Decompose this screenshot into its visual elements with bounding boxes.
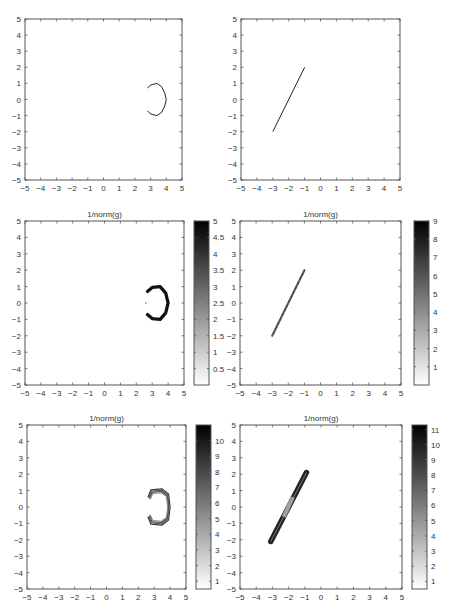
- x-tick-label: 4: [166, 389, 171, 398]
- y-tick-label: −2: [228, 128, 238, 137]
- y-tick-label: 5: [17, 15, 22, 24]
- x-tick-label: 4: [382, 184, 387, 193]
- x-tick-label: −1: [83, 184, 93, 193]
- panel-row1-left: −5−4−3−2−1012345−5−4−3−2−1012345: [12, 15, 185, 193]
- y-tick-label: 4: [233, 31, 238, 40]
- x-tick-label: −5: [20, 184, 30, 193]
- x-tick-label: 4: [168, 593, 173, 602]
- colorbar-tick-label: 8: [431, 471, 436, 480]
- y-tick-label: 2: [17, 266, 22, 275]
- x-tick-label: −3: [268, 593, 278, 602]
- axes-frame: [25, 221, 184, 385]
- y-tick-label: −5: [14, 585, 24, 594]
- colorbar-tick-label: 9: [431, 456, 436, 465]
- colorbar-tick-label: 3: [215, 546, 220, 555]
- y-tick-label: −1: [227, 519, 237, 528]
- y-tick-label: −2: [14, 536, 24, 545]
- y-tick-label: −3: [227, 348, 237, 357]
- x-tick-label: 3: [152, 593, 157, 602]
- colorbar: 123456789: [414, 217, 438, 385]
- x-tick-label: 1: [335, 593, 340, 602]
- y-tick-label: 3: [233, 47, 238, 56]
- y-tick-label: 0: [17, 96, 22, 105]
- colorbar-tick-label: 8: [215, 468, 220, 477]
- colorbar-tick-label: 4.5: [213, 233, 225, 242]
- y-tick-label: −4: [12, 160, 22, 169]
- y-tick-label: 0: [232, 299, 237, 308]
- y-tick-label: 1: [233, 79, 238, 88]
- colorbar-tick-label: 1: [431, 577, 436, 586]
- colorbar-tick-label: 1: [215, 577, 220, 586]
- x-tick-label: 0: [104, 593, 109, 602]
- x-tick-label: −3: [52, 389, 62, 398]
- y-tick-label: −1: [12, 315, 22, 324]
- axes-frame: [241, 19, 400, 180]
- y-tick-label: 2: [232, 266, 237, 275]
- colorbar-tick-label: 9: [215, 452, 220, 461]
- x-tick-label: 5: [398, 184, 403, 193]
- x-tick-label: 5: [182, 389, 187, 398]
- y-tick-label: 4: [232, 437, 237, 446]
- y-tick-label: −4: [227, 365, 237, 374]
- x-tick-label: 1: [117, 184, 122, 193]
- y-tick-label: −5: [12, 176, 22, 185]
- y-tick-label: 3: [17, 250, 22, 259]
- y-tick-label: −1: [227, 315, 237, 324]
- figure: −5−4−3−2−1012345−5−4−3−2−1012345−5−4−3−2…: [0, 0, 450, 611]
- x-tick-label: −5: [235, 389, 245, 398]
- colorbar-tick-label: 1.5: [213, 332, 225, 341]
- y-tick-label: 5: [232, 217, 237, 226]
- y-tick-label: −5: [228, 176, 238, 185]
- colorbar-tick-label: 7: [431, 486, 436, 495]
- y-tick-label: 3: [232, 454, 237, 463]
- axes-frame: [27, 425, 186, 589]
- y-tick-label: −2: [227, 536, 237, 545]
- x-tick-label: −3: [268, 184, 278, 193]
- x-tick-label: 2: [133, 184, 138, 193]
- colorbar-tick-label: 7: [433, 253, 438, 262]
- x-tick-label: 0: [318, 184, 323, 193]
- y-tick-label: −3: [14, 552, 24, 561]
- y-tick-label: 2: [233, 63, 238, 72]
- colorbar-tick-label: 5: [431, 517, 436, 526]
- x-tick-label: 5: [399, 389, 404, 398]
- panel-title: 1/norm(g): [89, 414, 124, 423]
- y-tick-label: −4: [12, 365, 22, 374]
- x-tick-label: 3: [366, 184, 371, 193]
- y-tick-label: 3: [17, 47, 22, 56]
- y-tick-label: −4: [14, 569, 24, 578]
- colorbar-tick-label: 5: [215, 515, 220, 524]
- y-tick-label: 5: [233, 15, 238, 24]
- y-tick-label: −5: [227, 381, 237, 390]
- x-tick-label: −4: [38, 593, 48, 602]
- colorbar-tick-label: 5: [433, 290, 438, 299]
- colorbar-tick-label: 1: [433, 363, 438, 372]
- x-tick-label: −2: [70, 593, 80, 602]
- colorbar-tick-label: 4: [433, 308, 438, 317]
- x-tick-label: −4: [252, 389, 262, 398]
- x-tick-label: −1: [300, 593, 310, 602]
- x-tick-label: −3: [54, 593, 64, 602]
- colorbar: 1234567891011: [412, 425, 440, 589]
- y-tick-label: 1: [232, 283, 237, 292]
- x-tick-label: 1: [118, 389, 123, 398]
- panel-row2-right: −5−4−3−2−1012345−5−4−3−2−10123451/norm(g…: [227, 210, 438, 398]
- colorbar-tick-label: 3: [433, 326, 438, 335]
- x-tick-label: 5: [400, 593, 405, 602]
- x-tick-label: 2: [350, 184, 355, 193]
- y-tick-label: 2: [17, 63, 22, 72]
- x-tick-label: 3: [367, 389, 372, 398]
- y-tick-label: 0: [19, 503, 24, 512]
- x-tick-label: 5: [184, 593, 189, 602]
- y-tick-label: 1: [17, 79, 22, 88]
- x-tick-label: −5: [22, 593, 32, 602]
- x-tick-label: 2: [351, 593, 356, 602]
- colorbar-tick-label: 6: [215, 499, 220, 508]
- x-tick-label: −4: [252, 184, 262, 193]
- x-tick-label: −1: [84, 389, 94, 398]
- axes-frame: [240, 221, 401, 385]
- colorbar-tick-label: 1: [213, 348, 218, 357]
- panel-title: 1/norm(g): [303, 210, 338, 219]
- colorbar-tick-label: 3.5: [213, 266, 225, 275]
- colorbar-tick-label: 6: [431, 501, 436, 510]
